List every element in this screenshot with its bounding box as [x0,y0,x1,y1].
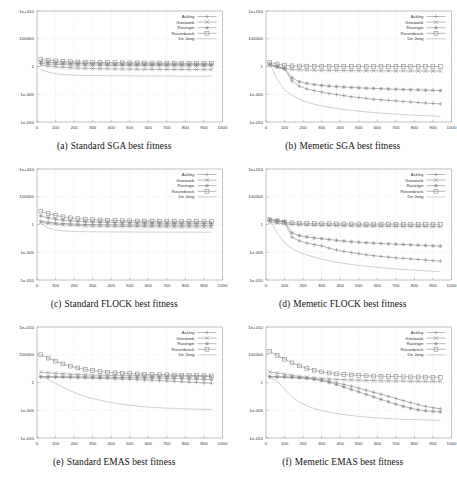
legend-label-griewank: Griewank [405,20,424,25]
legend-label-ackley: Ackley [182,14,196,19]
data-point-rastrigin [312,236,316,240]
data-point-rastrigin [334,383,338,387]
caption-text-a: Standard SGA best fitness [71,141,172,151]
data-point-rastrigin [334,85,338,89]
y-tick-label: 1e-005 [249,250,263,255]
data-point-ackley [408,257,412,261]
x-tick-label: 900 [429,283,437,288]
caption-text-c: Standard FLOCK best fitness [64,299,177,309]
caption-b: (b)Memetic SGA best fitness [229,140,457,153]
legend-label-rastrigin: Rastrigin [406,183,424,188]
caption-label-d: (d) [279,299,290,309]
panel-c: 010020030040050060070080090010001e+01010… [0,158,229,316]
data-point-rastrigin [416,243,420,247]
plot-area-c: 010020030040050060070080090010001e+01010… [0,158,229,298]
chart-a: 010020030040050060070080090010001e+01010… [0,0,229,140]
data-point-rastrigin [364,241,368,245]
legend-marker-ackley [205,331,209,335]
data-point-ackley [401,100,405,104]
x-tick-label: 1000 [218,125,228,130]
legend-label-de-jong: De Jong [407,194,424,199]
data-point-rastrigin [282,375,286,379]
x-tick-label: 400 [108,125,116,130]
legend-label-griewank: Griewank [176,178,195,183]
x-tick-label: 700 [163,283,171,288]
data-point-rastrigin [282,66,286,70]
legend-marker-ackley [434,15,438,19]
x-tick-label: 500 [355,283,363,288]
caption-d: (d)Memetic FLOCK best fitness [229,298,457,311]
series-line-de-jong [269,220,440,272]
data-point-rastrigin [342,385,346,389]
data-point-rastrigin [128,376,132,380]
data-point-rosenbrock [267,350,271,354]
data-point-ackley [195,381,199,385]
y-tick-label: 1e-010 [20,436,34,441]
legend-label-ackley: Ackley [410,330,424,335]
data-point-ackley [438,259,442,263]
y-tick-label: 1e-005 [20,92,34,97]
legend-label-de-jong: De Jong [407,352,424,357]
x-tick-label: 100 [280,441,288,446]
data-point-ackley [371,97,375,101]
y-tick-label: 100000 [248,36,263,41]
data-point-ackley [356,96,360,100]
legend-label-ackley: Ackley [410,14,424,19]
y-tick-label: 100000 [19,36,34,41]
legend-label-ackley: Ackley [182,172,196,177]
x-tick-label: 100 [52,125,60,130]
x-tick-label: 400 [336,441,344,446]
data-point-ackley [408,100,412,104]
series-line-rosenbrock [41,59,212,63]
panel-b: 010020030040050060070080090010001e+01010… [229,0,457,158]
data-point-ackley [416,403,420,407]
legend-label-rastrigin: Rastrigin [406,341,424,346]
legend-label-de-jong: De Jong [178,36,195,41]
legend: AckleyGriewankRastriginRosenbrockDe Jong [172,330,217,357]
data-point-rastrigin [401,404,405,408]
data-point-rastrigin [438,244,442,248]
data-point-ackley [393,256,397,260]
data-point-ackley [423,258,427,262]
data-point-rastrigin [364,86,368,90]
x-tick-label: 400 [336,283,344,288]
caption-f: (f)Memetic EMAS best fitness [229,456,457,469]
data-point-rastrigin [297,80,301,84]
series-group [267,350,441,421]
data-point-rastrigin [393,87,397,91]
x-tick-label: 200 [70,441,78,446]
data-point-ackley [386,394,390,398]
data-point-rastrigin [98,375,102,379]
x-tick-label: 900 [200,283,208,288]
grid-lines [266,327,452,438]
data-point-rastrigin [297,376,301,380]
legend-marker-ackley [434,173,438,177]
data-point-rastrigin [371,241,375,245]
data-point-rastrigin [143,376,147,380]
x-tick-label: 0 [264,125,267,130]
series-line-rastrigin [269,64,440,91]
data-point-rastrigin [61,375,65,379]
x-tick-label: 600 [373,125,381,130]
x-tick-label: 500 [126,283,134,288]
data-point-ackley [423,404,427,408]
data-point-rastrigin [386,400,390,404]
series-group [267,217,441,271]
data-point-rastrigin [423,88,427,92]
x-tick-label: 400 [108,441,116,446]
x-tick-label: 200 [70,125,78,130]
y-tick-label: 1 [32,64,35,69]
x-tick-label: 700 [392,125,400,130]
caption-text-b: Memetic SGA best fitness [300,141,401,151]
data-point-ackley [297,239,301,243]
x-tick-label: 300 [89,125,97,130]
figure-row-2: 010020030040050060070080090010001e+01010… [0,158,457,316]
plot-area-f: 010020030040050060070080090010001e+01010… [229,316,457,456]
data-point-rastrigin [135,376,139,380]
data-point-ackley [349,251,353,255]
data-point-rastrigin [408,243,412,247]
x-tick-label: 200 [70,283,78,288]
data-point-ackley [416,101,420,105]
series-line-rosenbrock [269,62,440,66]
data-point-rastrigin [54,217,58,221]
